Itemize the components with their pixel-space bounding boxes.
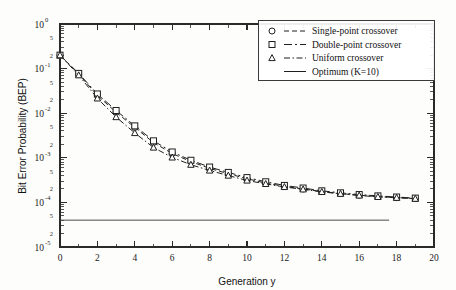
y-axis-title: Bit Error Probability (BEP): [17, 78, 28, 194]
marker-square: [269, 42, 275, 48]
x-tick-label: 14: [317, 253, 327, 263]
y-tick-exponent: -2: [45, 105, 50, 112]
legend-label: Double-point crossover: [312, 40, 402, 50]
x-tick-label: 16: [354, 253, 364, 263]
chart-legend: Single-point crossoverDouble-point cross…: [258, 20, 434, 80]
y-minor-tick-label: 2: [50, 96, 53, 103]
y-minor-tick-label: 2: [50, 52, 53, 59]
y-tick-label: 10: [35, 153, 45, 163]
x-axis-tick-labels: 02468101214161820: [58, 253, 439, 263]
legend-label: Optimum (K=10): [312, 67, 379, 78]
marker-square: [151, 138, 157, 144]
x-tick-label: 8: [207, 253, 212, 263]
y-minor-tick-label: 5: [50, 123, 53, 130]
x-tick-label: 18: [392, 253, 402, 263]
y-minor-tick-label: 5: [50, 212, 53, 219]
y-minor-tick-label: 2: [50, 185, 53, 192]
legend-label: Uniform crossover: [312, 53, 384, 63]
x-tick-label: 12: [280, 253, 290, 263]
y-minor-tick-label: 5: [50, 79, 53, 86]
chart-figure: 10010-110-210-310-410-52525252525 024681…: [0, 0, 456, 290]
y-minor-tick-label: 5: [50, 34, 53, 41]
y-tick-exponent: -4: [45, 194, 51, 201]
y-axis-tick-labels: 10010-110-210-310-410-52525252525: [35, 16, 54, 253]
marker-square: [132, 123, 138, 129]
y-tick-label: 10: [35, 20, 45, 30]
x-tick-label: 10: [242, 253, 252, 263]
y-tick-label: 10: [35, 198, 45, 208]
x-axis-title: Generation y: [218, 276, 275, 287]
y-minor-tick-label: 2: [50, 230, 53, 237]
x-tick-label: 0: [58, 253, 63, 263]
y-minor-tick-label: 2: [50, 141, 53, 148]
x-tick-label: 2: [95, 253, 100, 263]
x-tick-label: 4: [132, 253, 137, 263]
marker-circle: [269, 28, 275, 34]
x-tick-label: 6: [170, 253, 175, 263]
y-tick-exponent: -3: [45, 150, 50, 157]
x-tick-label: 20: [429, 253, 439, 263]
y-minor-tick-label: 5: [50, 168, 53, 175]
y-tick-label: 10: [35, 109, 45, 119]
bep-vs-generation-chart: 10010-110-210-310-410-52525252525 024681…: [0, 0, 456, 290]
y-tick-exponent: 0: [45, 16, 48, 23]
y-tick-exponent: -1: [45, 61, 50, 68]
y-tick-label: 10: [35, 243, 45, 253]
legend-label: Single-point crossover: [312, 26, 399, 36]
y-tick-exponent: -5: [45, 239, 50, 246]
y-tick-label: 10: [35, 64, 45, 74]
